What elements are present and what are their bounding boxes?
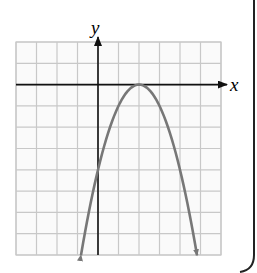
frame-border — [240, 0, 254, 272]
y-axis-label: y — [89, 17, 100, 38]
x-axis-label: x — [229, 74, 239, 95]
parabola-figure: x y — [0, 0, 257, 273]
